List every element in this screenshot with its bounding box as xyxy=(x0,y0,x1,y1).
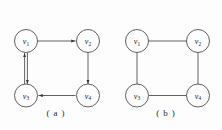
node-a-v1[interactable]: v1 xyxy=(15,30,38,53)
panel-a: v1 v2 v3 v4 xyxy=(15,30,100,108)
node-b-v4[interactable]: v4 xyxy=(187,84,210,107)
caption-panel-b: ( b ) xyxy=(110,108,222,118)
node-b-v3[interactable]: v3 xyxy=(126,84,149,107)
node-a-v3[interactable]: v3 xyxy=(15,84,38,107)
node-b-v1[interactable]: v1 xyxy=(126,30,149,53)
node-a-v2[interactable]: v2 xyxy=(77,30,100,53)
node-a-v4[interactable]: v4 xyxy=(77,84,100,107)
figure-page: v1 v2 v3 v4 xyxy=(0,0,222,130)
panel-b: v1 v2 v3 v4 xyxy=(126,30,210,108)
caption-panel-a: ( a ) xyxy=(0,108,112,118)
node-b-v2[interactable]: v2 xyxy=(187,30,210,53)
